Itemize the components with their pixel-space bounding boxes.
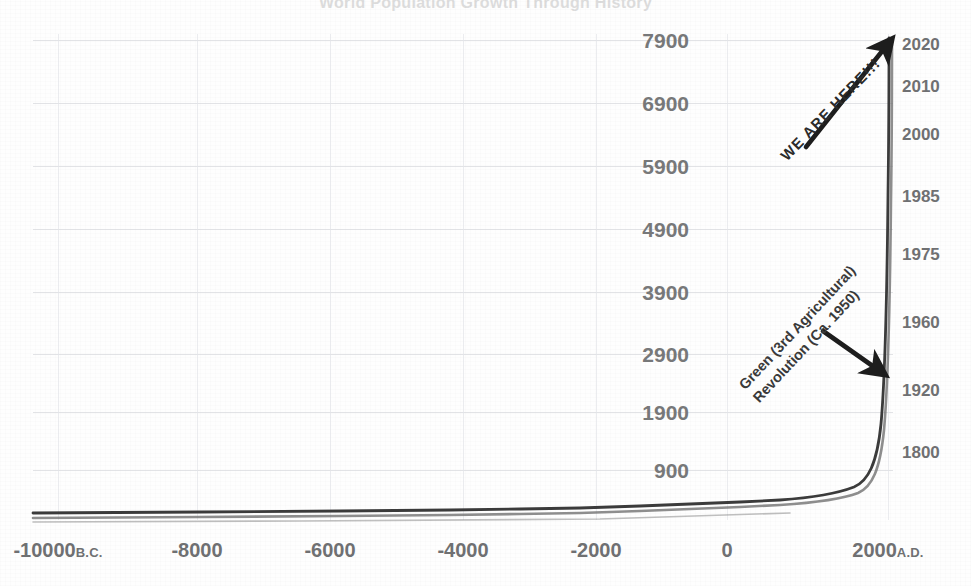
x-axis-tick-label: -8000 xyxy=(171,540,222,560)
y-axis-tick-label: 4900 xyxy=(615,219,689,240)
x-axis-tick-label: 2000A.D. xyxy=(852,540,923,560)
year-axis-labels: 2020 2010 2000 1985 1975 1960 1920 1800 xyxy=(902,34,970,520)
x-axis-tick-label: -6000 xyxy=(304,540,355,560)
year-tick-label: 2000 xyxy=(902,126,940,143)
x-axis-tick-label: 0 xyxy=(721,540,732,560)
x-axis-era-ad: A.D. xyxy=(897,545,924,560)
year-tick-label: 1975 xyxy=(902,246,940,263)
y-axis-tick-label: 3900 xyxy=(615,282,689,303)
y-axis-tick-label: 900 xyxy=(615,460,689,481)
y-axis-tick-label: 7900 xyxy=(615,30,689,51)
y-axis-tick-label: 2900 xyxy=(615,344,689,365)
x-axis-tick-value: 2000 xyxy=(852,539,897,561)
population-curve-shadow xyxy=(33,40,892,518)
x-axis-labels: -10000B.C. -8000 -6000 -4000 -2000 0 200… xyxy=(0,540,971,580)
year-tick-label: 2010 xyxy=(902,78,940,95)
year-tick-label: 1960 xyxy=(902,314,940,331)
population-curve xyxy=(33,38,889,513)
x-axis-tick-value: -10000 xyxy=(13,539,75,561)
green-revolution-arrow xyxy=(823,331,884,374)
year-tick-label: 2020 xyxy=(902,36,940,53)
y-axis-labels: 7900 6900 5900 4900 3900 2900 1900 900 xyxy=(615,34,689,520)
y-axis-tick-label: 6900 xyxy=(615,93,689,114)
y-axis-tick-label: 5900 xyxy=(615,156,689,177)
x-axis-tick-label: -4000 xyxy=(437,540,488,560)
year-tick-label: 1985 xyxy=(902,188,940,205)
x-axis-tick-label: -2000 xyxy=(570,540,621,560)
population-growth-chart: World Population Growth Through History xyxy=(0,0,971,586)
x-axis-tick-label: -10000B.C. xyxy=(13,540,102,560)
y-axis-tick-label: 1900 xyxy=(615,402,689,423)
year-tick-label: 1800 xyxy=(902,444,940,461)
year-tick-label: 1920 xyxy=(902,382,940,399)
x-axis-era-bc: B.C. xyxy=(76,545,103,560)
